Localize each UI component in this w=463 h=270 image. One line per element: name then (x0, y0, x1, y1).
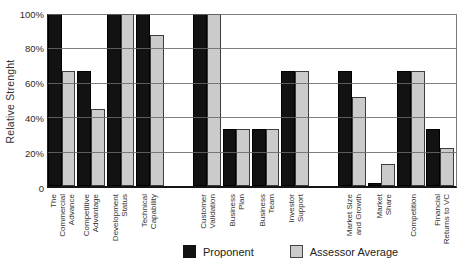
bar-proponent (77, 71, 91, 186)
bar-assessor (121, 14, 135, 186)
x-category-label: The Commercial Advance (47, 191, 76, 255)
bar-proponent (193, 14, 207, 186)
category-slot (136, 14, 165, 186)
plot-area (47, 14, 457, 188)
assessor-average-swatch-icon (290, 245, 303, 258)
bar-chart: Relative Strenght 100%80%60%40%20%0 The … (0, 0, 463, 270)
x-category-label: Development Status (106, 191, 135, 255)
bar-proponent (281, 71, 295, 186)
x-category-label-text: Business Plan (228, 194, 246, 252)
category-slot (48, 14, 77, 186)
legend-item-proponent: Proponent (183, 245, 254, 258)
bar-proponent (48, 14, 62, 186)
category-slot (107, 14, 136, 186)
category-slot (368, 14, 397, 186)
category-slot (193, 14, 222, 186)
x-category-label: Competitive Advantage (76, 191, 105, 255)
bar-assessor (91, 109, 105, 186)
x-category-label-text: Market Share (375, 194, 393, 252)
bar-proponent (426, 129, 440, 186)
bar-proponent (107, 14, 121, 186)
bar-assessor (440, 148, 454, 186)
y-tick-label: 40% (0, 113, 44, 124)
y-tick-label: 60% (0, 78, 44, 89)
legend-item-assessor-average: Assessor Average (290, 245, 398, 258)
x-category-label-text: Technical Capability (140, 194, 158, 252)
bar-assessor (236, 129, 250, 186)
x-category-label-text: Competition (409, 194, 418, 252)
x-category-label: Financial Returns to VC (428, 191, 457, 255)
bar-assessor (207, 14, 221, 186)
y-tick-label: 0 (0, 183, 44, 194)
legend: Proponent Assessor Average (183, 245, 398, 258)
legend-label-assessor-average: Assessor Average (310, 246, 398, 258)
x-category-label-text: Business Team (258, 194, 276, 252)
x-category-label: Technical Capability (135, 191, 164, 255)
legend-label-proponent: Proponent (203, 246, 254, 258)
bar-proponent (338, 71, 352, 186)
bar-proponent (223, 129, 237, 186)
category-slot (426, 14, 455, 186)
x-category-label-text: Competitive Advantage (82, 194, 100, 252)
bars-row (48, 14, 456, 186)
category-slot (338, 14, 367, 186)
gap-slot (311, 14, 338, 186)
x-category-label-text: Financial Returns to VC (433, 194, 451, 252)
bar-assessor (411, 71, 425, 186)
bar-assessor (62, 71, 76, 186)
x-category-label-text: Market Size and Growth (345, 194, 363, 252)
category-slot (252, 14, 281, 186)
category-slot (77, 14, 106, 186)
bar-proponent (136, 14, 150, 186)
bar-assessor (352, 97, 366, 186)
y-tick-label: 80% (0, 43, 44, 54)
bar-proponent (397, 71, 411, 186)
bar-assessor (150, 35, 164, 186)
category-slot (397, 14, 426, 186)
bar-assessor (295, 71, 309, 186)
y-tick-label: 20% (0, 148, 44, 159)
bar-assessor (266, 129, 280, 186)
x-category-label-text: Customer Validation (199, 194, 217, 252)
category-slot (281, 14, 310, 186)
bar-assessor (381, 164, 395, 186)
x-category-label-text: Investor Support (287, 194, 305, 252)
bar-proponent (368, 183, 382, 186)
category-slot (223, 14, 252, 186)
proponent-swatch-icon (183, 245, 196, 258)
y-tick-label: 100% (0, 9, 44, 20)
x-category-label-text: The Commercial Advance (48, 194, 75, 252)
gap-slot (166, 14, 193, 186)
bar-proponent (252, 129, 266, 186)
x-category-label: Competition (398, 191, 427, 255)
x-category-label-text: Development Status (111, 194, 129, 252)
y-axis-tick-labels: 100%80%60%40%20%0 (0, 0, 44, 270)
